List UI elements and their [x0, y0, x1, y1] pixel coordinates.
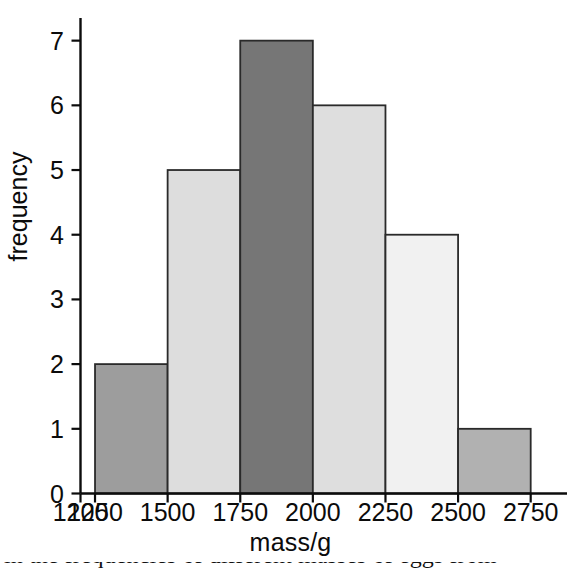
x-axis-title: mass/g [0, 528, 581, 557]
histogram-bar [385, 235, 458, 494]
y-tick-label: 2 [36, 352, 64, 377]
caption-text: in the frequencies of different masses o… [4, 562, 577, 569]
y-tick-label: 5 [36, 158, 64, 183]
x-tick-label: 1250 [67, 500, 123, 525]
x-tick-label: 2750 [503, 500, 559, 525]
y-tick-label: 1 [36, 416, 64, 441]
bars-group [95, 41, 531, 494]
x-tick-label: 1500 [140, 500, 196, 525]
histogram-bar [168, 170, 241, 493]
plot-canvas [0, 0, 581, 579]
histogram-bar [95, 364, 168, 493]
x-tick-label: 1750 [212, 500, 268, 525]
y-tick-label: 7 [36, 28, 64, 53]
y-tick-label: 6 [36, 93, 64, 118]
x-tick-label: 2250 [358, 500, 414, 525]
histogram-bar [240, 41, 313, 494]
histogram-figure: 01234567 1200125015001750200022502500275… [0, 0, 581, 579]
y-axis-title: frequency [4, 127, 33, 287]
cut-off-caption: in the frequencies of different masses o… [0, 562, 581, 579]
x-tick-label: 2000 [285, 500, 341, 525]
x-tick-label: 2500 [430, 500, 486, 525]
histogram-bar [313, 105, 386, 493]
y-tick-label: 3 [36, 287, 64, 312]
y-tick-marks [72, 41, 81, 494]
histogram-bar [458, 429, 531, 494]
y-tick-label: 4 [36, 222, 64, 247]
